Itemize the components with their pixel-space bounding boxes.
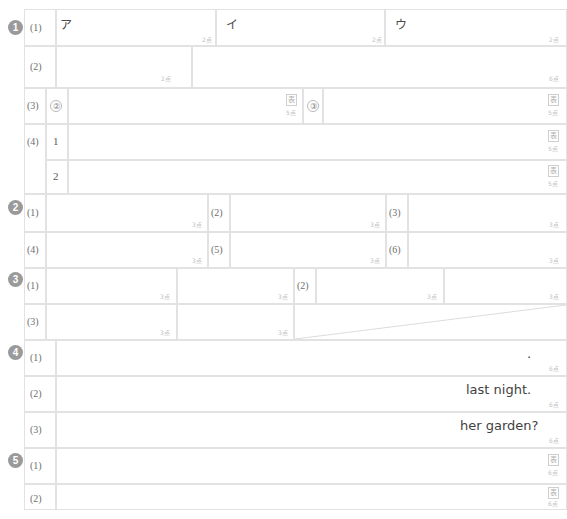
q4-2-label: (2) bbox=[30, 389, 42, 399]
q1-2-slot-a[interactable] bbox=[56, 46, 192, 88]
q1-2-points-b: 6点 bbox=[549, 76, 559, 82]
q2-3-label: (3) bbox=[389, 208, 401, 218]
q3-1-points-left: 3点 bbox=[160, 294, 170, 300]
q3-3-points-left: 3点 bbox=[160, 330, 170, 336]
q2-2-points: 3点 bbox=[370, 222, 380, 228]
q5-1-points: 6点 bbox=[548, 470, 558, 476]
section-badge-3: 3 bbox=[8, 272, 23, 287]
q1-4-slot-2[interactable] bbox=[68, 160, 567, 194]
q2-5-points: 3点 bbox=[370, 258, 380, 264]
q1-4-kanji-mark-2: 表 bbox=[548, 165, 559, 177]
section-badge-1: 1 bbox=[8, 20, 23, 35]
q4-2-points: 6点 bbox=[549, 402, 559, 408]
q2-1-label: (1) bbox=[27, 208, 39, 218]
q5-2-kanji-mark: 表 bbox=[548, 487, 559, 499]
q1-1-slot-c[interactable] bbox=[385, 9, 567, 46]
q1-2-points-a: 2点 bbox=[161, 76, 171, 82]
q5-1-label: (1) bbox=[30, 461, 42, 471]
q3-1-label: (1) bbox=[27, 281, 39, 291]
q1-3-slot-2[interactable] bbox=[68, 88, 303, 124]
q2-4-slot[interactable] bbox=[46, 232, 208, 268]
q1-4-index-1: 1 bbox=[53, 136, 59, 147]
q1-3-circled-3: ③ bbox=[307, 100, 319, 112]
q1-1-points-a: 2点 bbox=[202, 37, 212, 43]
q1-1-slot-b[interactable] bbox=[216, 9, 385, 46]
q4-1-points: 6点 bbox=[549, 366, 559, 372]
q2-4-label: (4) bbox=[27, 245, 39, 255]
q1-4-label: (4) bbox=[27, 137, 39, 147]
q1-2-slot-b[interactable] bbox=[192, 46, 567, 88]
q4-1-slot[interactable] bbox=[56, 340, 567, 376]
q3-3-points-mid: 3点 bbox=[278, 330, 288, 336]
q2-2-label: (2) bbox=[211, 208, 223, 218]
q1-4-cell-a bbox=[24, 124, 46, 194]
q3-3-label: (3) bbox=[27, 317, 39, 327]
q5-2-points: 6点 bbox=[548, 501, 558, 507]
q1-3-kanji-mark-2: 表 bbox=[286, 94, 297, 106]
q3-2-points-left: 3点 bbox=[427, 294, 437, 300]
q1-3-points-3: 5点 bbox=[548, 110, 558, 116]
q1-1-points-c: 2点 bbox=[549, 37, 559, 43]
q2-6-points: 3点 bbox=[549, 258, 559, 264]
q3-2-slot-left[interactable] bbox=[316, 268, 444, 304]
q4-3-tail-text: her garden? bbox=[460, 419, 538, 432]
q1-2-label: (2) bbox=[30, 62, 42, 72]
q2-5-slot[interactable] bbox=[230, 232, 386, 268]
section-badge-2: 2 bbox=[8, 200, 23, 215]
q1-3-circled-2: ② bbox=[50, 100, 62, 112]
q2-5-label: (5) bbox=[211, 245, 223, 255]
q1-3-points-2: 5点 bbox=[286, 110, 296, 116]
q1-4-points-2: 5点 bbox=[548, 181, 558, 187]
q2-4-points: 3点 bbox=[192, 258, 202, 264]
q2-1-points: 3点 bbox=[192, 222, 202, 228]
q4-2-tail-text: last night. bbox=[466, 383, 531, 396]
q1-1-points-b: 2点 bbox=[372, 37, 382, 43]
q2-6-label: (6) bbox=[389, 245, 401, 255]
q5-2-label: (2) bbox=[30, 494, 42, 504]
q2-6-slot[interactable] bbox=[408, 232, 567, 268]
q1-1-label: (1) bbox=[30, 23, 42, 33]
q1-4-points-1: 5点 bbox=[548, 146, 558, 152]
q1-4-slot-1[interactable] bbox=[68, 124, 567, 160]
q3-2-label: (2) bbox=[297, 281, 309, 291]
q5-2-slot[interactable] bbox=[56, 484, 567, 510]
q3-1-points-mid: 3点 bbox=[278, 294, 288, 300]
q1-1-slot-a[interactable] bbox=[56, 9, 216, 46]
q2-1-slot[interactable] bbox=[46, 194, 208, 232]
q1-1-prompt-a: ア bbox=[60, 19, 72, 31]
q1-4-index-2: 2 bbox=[53, 171, 59, 182]
q4-3-label: (3) bbox=[30, 425, 42, 435]
q1-3-kanji-mark-3: 表 bbox=[548, 94, 559, 106]
q4-1-label: (1) bbox=[30, 353, 42, 363]
q4-3-points: 6点 bbox=[549, 438, 559, 444]
q2-3-slot[interactable] bbox=[408, 194, 567, 232]
q1-3-slot-3[interactable] bbox=[323, 88, 567, 124]
q1-1-prompt-c: ウ bbox=[395, 19, 407, 31]
answer-sheet: 1 (1) ア 2点 イ 2点 ウ 2点 (2) 2点 6点 (3) ② 表 5… bbox=[0, 0, 567, 519]
q3-1-slot-mid[interactable] bbox=[177, 268, 294, 304]
q5-1-slot[interactable] bbox=[56, 448, 567, 484]
q4-1-tail-text: . bbox=[527, 347, 531, 360]
q3-2-points-right: 3点 bbox=[549, 294, 559, 300]
q2-3-points: 3点 bbox=[549, 222, 559, 228]
section-badge-4: 4 bbox=[8, 345, 23, 360]
q3-3-slot-mid[interactable] bbox=[177, 304, 294, 340]
q2-2-slot[interactable] bbox=[230, 194, 386, 232]
q5-1-kanji-mark: 表 bbox=[548, 454, 559, 466]
q1-1-prompt-b: イ bbox=[226, 19, 238, 31]
q1-4-kanji-mark-1: 表 bbox=[548, 130, 559, 142]
q1-3-label: (3) bbox=[27, 101, 39, 111]
section-badge-5: 5 bbox=[8, 453, 23, 468]
q3-1-slot-left[interactable] bbox=[46, 268, 177, 304]
q3-3-slot-left[interactable] bbox=[46, 304, 177, 340]
void-diagonal-line bbox=[294, 304, 567, 340]
